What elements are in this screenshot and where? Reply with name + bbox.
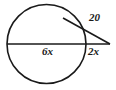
geometry-figure: 20 6x 2x — [0, 0, 116, 90]
tangent-length-label: 20 — [89, 12, 100, 23]
secant-external-label: 2x — [88, 46, 99, 57]
secant-chord-label: 6x — [42, 46, 53, 57]
